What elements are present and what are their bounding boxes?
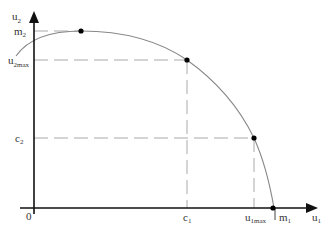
point-c1-u2max	[184, 57, 189, 62]
y-tick-m2: m2	[14, 25, 27, 39]
x-tick-c1: c1	[183, 211, 192, 225]
x-tick-u1max: u1max	[245, 211, 267, 225]
x-tick-m1: m1	[279, 211, 292, 225]
point-u1max-c2	[251, 135, 256, 140]
origin-label: 0	[26, 210, 32, 222]
frontier-curve	[16, 31, 274, 208]
point-m2-peak	[78, 28, 83, 33]
x-axis-label: u1	[312, 211, 322, 225]
diagram-canvas: u2 m2 u2max c2 0 c1 u1max m1 u1	[0, 0, 331, 234]
y-tick-u2max: u2max	[8, 54, 30, 69]
point-m1-intercept	[270, 205, 275, 210]
y-axis-arrow-icon	[29, 11, 39, 23]
dashed-guides	[34, 31, 254, 208]
y-tick-c2: c2	[15, 132, 24, 146]
y-axis-label: u2	[12, 10, 22, 25]
